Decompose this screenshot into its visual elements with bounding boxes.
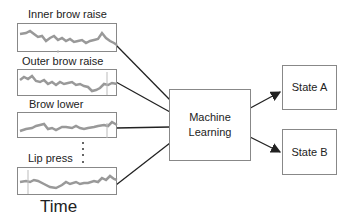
signal-label-inner-brow-raise: Inner brow raise [28, 8, 107, 20]
state-b-box: State B [282, 129, 337, 175]
state-b-label: State B [291, 145, 327, 160]
signal-label-lip-press: Lip press [28, 152, 73, 164]
signal-label-brow-lower: Brow lower [29, 98, 83, 110]
machine-learning-line1: Machine [189, 110, 232, 125]
machine-learning-line2: Learning [189, 125, 232, 140]
state-a-box: State A [282, 65, 337, 110]
machine-learning-box: Machine Learning [169, 89, 251, 161]
time-axis-label: Time [40, 197, 77, 217]
signal-plot-lip-press [17, 167, 117, 195]
signal-plot-outer-brow-raise [17, 69, 117, 96]
signal-plot-brow-lower [17, 112, 117, 138]
state-a-label: State A [292, 80, 327, 95]
signal-label-outer-brow-raise: Outer brow raise [22, 55, 103, 67]
signal-plot-inner-brow-raise [17, 23, 117, 52]
